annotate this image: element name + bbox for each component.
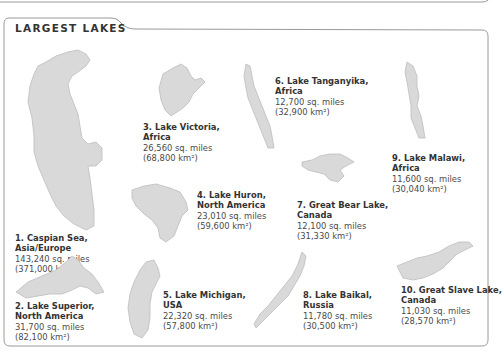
lake-michigan-shape <box>124 258 164 340</box>
lake-huron-shape <box>130 182 192 244</box>
lake-superior-shape <box>14 252 104 302</box>
lake-label-5: 5. Lake Michigan, USA 22,320 sq. miles (… <box>163 290 246 332</box>
page-title: LARGEST LAKES <box>15 22 127 34</box>
lake-label-6: 6. Lake Tanganyika, Africa 12,700 sq. mi… <box>275 76 368 118</box>
lake-label-7: 7. Great Bear Lake, Canada 12,100 sq. mi… <box>297 200 388 242</box>
lake-tanganyika-shape <box>242 62 278 152</box>
great-bear-lake-shape <box>300 152 356 186</box>
great-slave-lake-shape <box>395 238 475 284</box>
lake-label-8: 8. Lake Baikal, Russia 11,780 sq. miles … <box>303 290 372 332</box>
caspian-sea-shape <box>16 46 106 236</box>
lake-victoria-shape <box>155 62 207 120</box>
lake-baikal-shape <box>252 250 308 332</box>
lake-label-4: 4. Lake Huron, North America 23,010 sq. … <box>197 190 266 232</box>
lake-malawi-shape <box>403 60 429 140</box>
lake-label-10: 10. Great Slave Lake, Canada 11,030 sq. … <box>401 285 502 327</box>
lake-label-3: 3. Lake Victoria, Africa 26,560 sq. mile… <box>143 122 220 164</box>
lake-label-9: 9. Lake Malawi, Africa 11,600 sq. miles … <box>392 153 465 195</box>
lake-label-2: 2. Lake Superior, North America 31,700 s… <box>15 301 94 343</box>
